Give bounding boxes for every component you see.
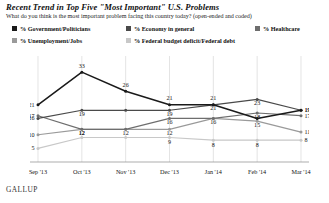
series-point [37,133,40,136]
series-point [168,103,171,106]
legend-item-unemployment: % Unemployment/Jobs [12,37,82,44]
data-point-label: 9 [168,139,171,145]
series-point [37,117,40,120]
data-point-label: 17 [305,113,310,119]
data-point-label: 12 [123,130,129,136]
x-axis-tick-label: Oct '13 [62,168,102,175]
legend-item-economy: % Economy in general [126,25,194,32]
legend-swatch-deficit [126,38,131,43]
legend-swatch-economy [126,26,131,31]
series-point [124,136,127,139]
data-point-label: 8 [212,142,215,148]
data-point-label: 10 [30,132,35,138]
x-axis-tick-labels: Sep '13Oct '13Nov '13Dec '13Jan '14Feb '… [0,168,329,182]
data-point-label: 23 [254,100,260,106]
legend-label-healthcare: % Healthcare [263,25,300,32]
series-point [300,139,303,142]
line-chart-svg: 2133262121191619192123191712161618171012… [30,56,309,166]
legend-swatch-unemployment [12,38,17,43]
data-point-label: 19 [166,111,172,117]
data-point-label: 12 [79,130,85,136]
series-point [37,114,40,117]
x-axis-tick-label: Mar '14 [281,168,321,175]
gallup-chart-figure: Recent Trend in Top Five "Most Important… [0,0,329,203]
legend-item-deficit: % Federal budget deficit/Federal debt [126,37,235,44]
data-point-label: 21 [210,95,216,101]
data-point-label: 18 [254,114,260,120]
chart-subtitle: What do you think is the most important … [6,13,252,19]
x-axis-tick-label: Nov '13 [106,168,146,175]
x-axis-tick-label: Dec '13 [150,168,190,175]
series-point [300,109,303,112]
data-point-label: 26 [123,82,129,88]
legend-item-healthcare: % Healthcare [255,25,300,32]
series-point [124,90,127,93]
series-point [300,131,303,134]
series-point [124,109,127,112]
data-point-label: 33 [79,63,85,69]
legend-label-deficit: % Federal budget deficit/Federal debt [134,37,235,44]
x-axis-tick-label: Sep '13 [18,168,58,175]
legend-swatch-healthcare [255,26,260,31]
data-point-label: 21 [166,95,172,101]
gallup-logo-text: GALLUP [6,185,38,194]
data-point-label: 19 [79,111,85,117]
data-point-label: 21 [30,102,35,108]
data-point-label: 15 [254,122,260,128]
series-point [80,136,83,139]
series-point [37,103,40,106]
data-point-label: 8 [305,137,308,143]
data-point-label: 5 [31,145,34,151]
legend-swatch-government [12,26,17,31]
data-point-label: 21 [210,105,216,111]
x-axis-tick-label: Feb '14 [237,168,277,175]
data-point-label: 8 [256,142,259,148]
series-point [37,147,40,150]
series-point [300,114,303,117]
data-point-label: 17 [30,113,35,119]
chart-legend: % Government/Politicians % Economy in ge… [6,25,324,49]
data-point-label: 16 [210,119,216,125]
legend-label-unemployment: % Unemployment/Jobs [20,37,82,44]
data-point-label: 16 [166,119,172,125]
series-point [80,71,83,74]
chart-title: Recent Trend in Top Five "Most Important… [6,2,219,12]
legend-item-government: % Government/Politicians [12,25,90,32]
legend-label-government: % Government/Politicians [20,25,90,32]
chart-plot-area: 2133262121191619192123191712161618171012… [30,56,309,166]
data-point-label: 12 [166,130,172,136]
x-axis-tick-label: Jan '14 [193,168,233,175]
data-point-label: 11 [305,129,310,135]
legend-label-economy: % Economy in general [134,25,194,32]
